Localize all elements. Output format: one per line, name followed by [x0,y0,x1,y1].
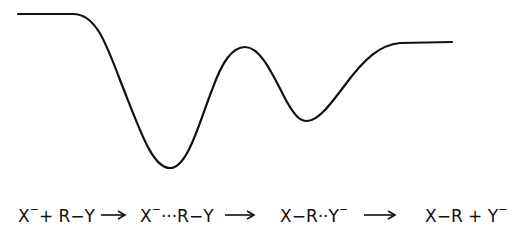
svg-text:X−+ R−Y: X−+ R−Y [18,203,96,226]
stage-products: X−R + Y− [425,203,507,226]
arrow-3 [364,211,395,219]
stage-complex-1: X−···R−Y [140,203,214,226]
arrow-1 [101,211,125,219]
stage-reactants: X−+ R−Y [18,203,96,226]
energy-profile-diagram: X−+ R−Y X−···R−Y X−R··Y− X−R + Y− [0,0,513,236]
svg-text:X−···R−Y: X−···R−Y [140,203,214,226]
energy-curve [18,14,452,168]
arrow-2 [225,211,254,219]
svg-text:X−R··Y−: X−R··Y− [280,203,348,226]
svg-text:X−R + Y−: X−R + Y− [425,203,507,226]
stage-complex-2: X−R··Y− [280,203,348,226]
